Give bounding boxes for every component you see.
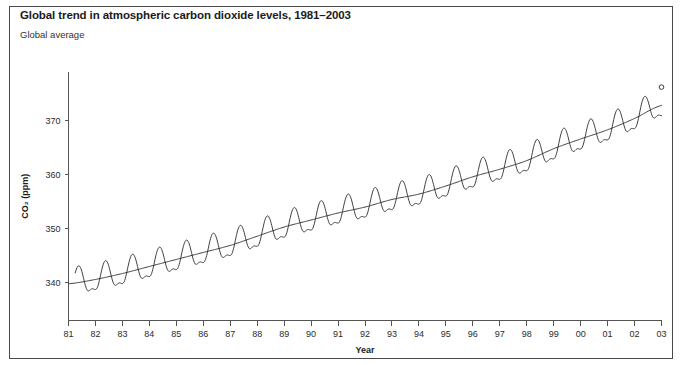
- x-tick-label: 95: [441, 329, 451, 339]
- series-smoothed-trend: [69, 105, 662, 283]
- x-tick-label: 90: [306, 329, 316, 339]
- x-axis-ticks: 8182838485868788899091929394959697989900…: [63, 321, 666, 339]
- x-tick-label: 87: [225, 329, 235, 339]
- x-tick-label: 91: [333, 329, 343, 339]
- x-tick-label: 93: [387, 329, 397, 339]
- x-tick-label: 96: [468, 329, 478, 339]
- y-axis-ticks: 340350360370: [45, 116, 68, 288]
- y-tick-label: 340: [45, 278, 60, 288]
- x-tick-label: 83: [117, 329, 127, 339]
- x-tick-label: 00: [576, 329, 586, 339]
- chart-figure: Global trend in atmospheric carbon dioxi…: [0, 0, 682, 365]
- x-tick-label: 01: [603, 329, 613, 339]
- series-monthly-co2: [75, 96, 661, 291]
- y-tick-label: 370: [45, 116, 60, 126]
- x-tick-label: 84: [144, 329, 154, 339]
- x-tick-label: 92: [360, 329, 370, 339]
- x-tick-label: 86: [198, 329, 208, 339]
- x-tick-label: 85: [171, 329, 181, 339]
- y-tick-label: 360: [45, 170, 60, 180]
- y-axis-title: CO₂ (ppm): [20, 174, 30, 219]
- x-axis-title: Year: [355, 345, 375, 355]
- x-tick-label: 03: [656, 329, 666, 339]
- x-tick-label: 02: [630, 329, 640, 339]
- y-tick-label: 350: [45, 224, 60, 234]
- x-tick-label: 97: [495, 329, 505, 339]
- x-tick-label: 99: [549, 329, 559, 339]
- x-tick-label: 89: [279, 329, 289, 339]
- x-tick-label: 81: [63, 329, 73, 339]
- x-tick-label: 88: [252, 329, 262, 339]
- plot-area: 340350360370 818283848586878889909192939…: [0, 0, 682, 365]
- x-tick-label: 82: [90, 329, 100, 339]
- x-tick-label: 98: [522, 329, 532, 339]
- endpoint-marker: [659, 85, 664, 90]
- x-tick-label: 94: [414, 329, 424, 339]
